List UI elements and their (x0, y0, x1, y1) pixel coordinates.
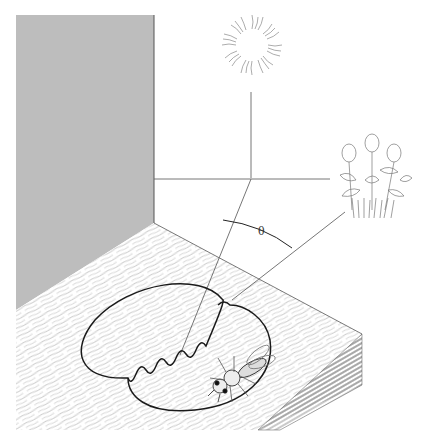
angle-theta: θ (223, 220, 292, 248)
theta-label: θ (258, 225, 265, 238)
waggle-dance-diagram: θ (0, 0, 427, 443)
sun-icon (222, 15, 282, 75)
clover-flowers-icon (340, 134, 412, 218)
